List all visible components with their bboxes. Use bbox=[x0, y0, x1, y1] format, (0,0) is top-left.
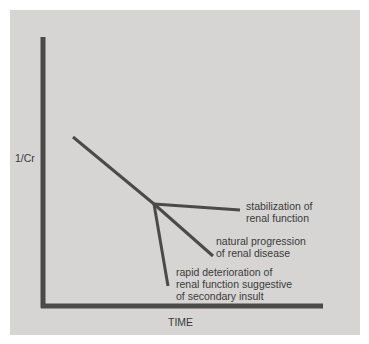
annotation-line: natural progression bbox=[216, 235, 306, 247]
annotation-rapid-deterioration: rapid deterioration of renal function su… bbox=[176, 266, 292, 302]
annotation-line: renal function bbox=[246, 212, 313, 224]
annotation-line: renal function suggestive bbox=[176, 278, 292, 290]
annotation-natural-progression: natural progression of renal disease bbox=[216, 235, 306, 259]
annotation-line: stabilization of bbox=[246, 200, 313, 212]
annotation-line: rapid deterioration of bbox=[176, 266, 292, 278]
annotation-line: of secondary insult bbox=[176, 290, 292, 302]
annotation-stabilization: stabilization of renal function bbox=[246, 200, 313, 224]
decline-line bbox=[73, 137, 154, 204]
stabilization-line bbox=[154, 204, 240, 210]
y-axis-label: 1/Cr bbox=[15, 152, 35, 164]
x-axis-label: TIME bbox=[168, 316, 193, 328]
annotation-line: of renal disease bbox=[216, 247, 306, 259]
